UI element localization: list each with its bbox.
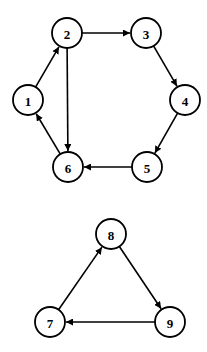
node-label: 8 <box>108 228 115 243</box>
node-9: 9 <box>155 307 185 337</box>
edge-8-to-9 <box>119 246 161 308</box>
directed-graph: 123456789 <box>0 0 207 352</box>
node-1: 1 <box>13 85 43 115</box>
node-7: 7 <box>35 307 65 337</box>
node-4: 4 <box>170 85 200 115</box>
node-label: 5 <box>144 161 151 176</box>
edge-2-to-6 <box>67 48 68 151</box>
node-2: 2 <box>52 18 82 48</box>
node-label: 3 <box>143 27 150 42</box>
node-5: 5 <box>132 152 162 182</box>
node-label: 7 <box>47 316 54 331</box>
edge-4-to-5 <box>155 113 178 153</box>
node-3: 3 <box>131 18 161 48</box>
edge-6-to-1 <box>36 114 60 154</box>
node-6: 6 <box>53 152 83 182</box>
edge-3-to-4 <box>154 46 177 86</box>
node-label: 2 <box>64 27 71 42</box>
nodes-layer: 123456789 <box>13 18 200 337</box>
edge-1-to-2 <box>36 47 59 87</box>
edge-7-to-8 <box>59 247 102 310</box>
node-label: 4 <box>182 94 189 109</box>
node-label: 1 <box>25 94 32 109</box>
node-label: 9 <box>167 316 174 331</box>
node-label: 6 <box>65 161 72 176</box>
node-8: 8 <box>96 219 126 249</box>
